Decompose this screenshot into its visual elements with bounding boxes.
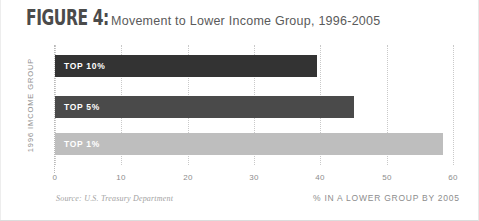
xtick-10: 10	[116, 173, 126, 182]
figure-number-label: FIGURE 4:	[26, 8, 109, 29]
plot-area: TOP 10% TOP 5% TOP 1% 0 10 20 30 40 50 6…	[55, 45, 453, 165]
bar-top-1-percent: TOP 1%	[55, 133, 443, 155]
xtick-20: 20	[183, 173, 193, 182]
bar-label-top-10-percent: TOP 10%	[64, 61, 105, 71]
xtick-30: 30	[249, 173, 259, 182]
xtick-60: 60	[448, 173, 458, 182]
xtick-0: 0	[53, 173, 58, 182]
xtick-40: 40	[315, 173, 325, 182]
bar-top-10-percent: TOP 10%	[55, 55, 317, 77]
bar-label-top-1-percent: TOP 1%	[64, 139, 100, 149]
frame-left-edge	[0, 0, 1, 221]
x-axis-title: % IN A LOWER GROUP BY 2005	[313, 193, 460, 203]
bar-label-top-5-percent: TOP 5%	[64, 102, 100, 112]
xtick-50: 50	[382, 173, 392, 182]
y-axis-title: 1996 IMCOME GROUP	[26, 45, 35, 165]
figure-container: FIGURE 4: Movement to Lower Income Group…	[0, 0, 479, 221]
bar-top-5-percent: TOP 5%	[55, 96, 354, 118]
source-note: Source: U.S. Treasury Department	[56, 194, 173, 203]
figure-header: FIGURE 4: Movement to Lower Income Group…	[26, 8, 380, 29]
figure-title: Movement to Lower Income Group, 1996-200…	[111, 15, 380, 28]
gridline-60	[453, 45, 454, 165]
